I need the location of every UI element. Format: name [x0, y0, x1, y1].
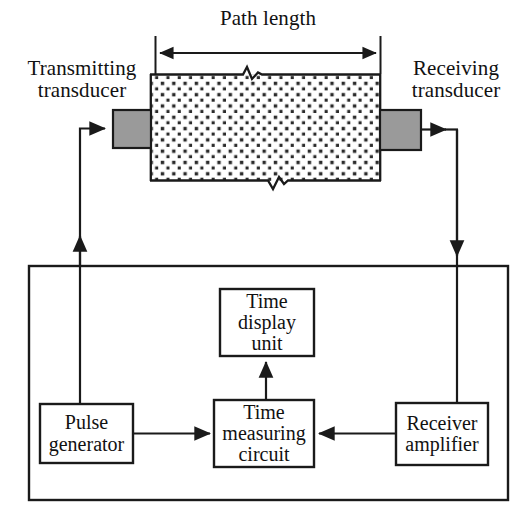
receiver-amplifier-label: Receiver amplifier [396, 403, 488, 465]
receiver-amplifier-label-line2: amplifier [405, 434, 478, 455]
path-length-label: Path length [180, 8, 356, 30]
receiving-transducer-label-line1: Receiving [413, 56, 499, 80]
time-display-unit-label-line3: unit [251, 333, 282, 354]
time-display-unit-label: Time display unit [220, 289, 314, 356]
transmitting-transducer-label: Transmittingtransducer [8, 58, 156, 102]
transmitting-transducer-label-line2: transducer [38, 78, 126, 102]
wire-pulse-to-transmitter [80, 129, 105, 267]
time-measuring-circuit-label-line3: circuit [238, 444, 289, 465]
time-measuring-circuit-label: Time measuring circuit [214, 400, 314, 467]
transmitting-transducer-label-line1: Transmitting [28, 56, 137, 80]
transmitting-transducer-body [113, 110, 151, 148]
path-length-dimension [156, 36, 381, 74]
pulse-generator-label-line1: Pulse [65, 412, 108, 433]
receiving-transducer-body [380, 110, 421, 150]
time-display-unit-label-line1: Time [246, 291, 288, 312]
receiver-amplifier-label-line1: Receiver [406, 413, 477, 434]
specimen-block [150, 67, 381, 189]
wire-receiver-to-amplifier [421, 130, 458, 267]
time-measuring-circuit-label-line1: Time [243, 402, 285, 423]
pulse-generator-label-line2: generator [49, 434, 125, 455]
time-display-unit-label-line2: display [238, 312, 296, 333]
ultrasonic-transit-time-diagram: Path length Transmittingtransducer Recei… [0, 0, 529, 522]
pulse-generator-label: Pulse generator [40, 404, 133, 463]
time-measuring-circuit-label-line2: measuring [222, 423, 305, 444]
receiving-transducer-label: Receivingtransducer [385, 58, 527, 102]
receiving-transducer-label-line2: transducer [412, 78, 500, 102]
